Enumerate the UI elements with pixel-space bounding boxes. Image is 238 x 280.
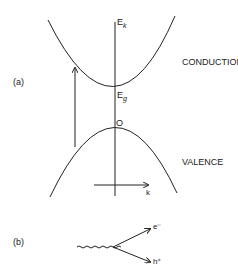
band-diagram	[0, 0, 238, 280]
electron-arrow	[113, 229, 150, 247]
hole-arrow	[113, 247, 150, 262]
valence-band-curve	[50, 127, 177, 197]
energy-axis-label: Ek	[117, 17, 127, 29]
panel-b-label: (b)	[13, 237, 24, 247]
conduction-label: CONDUCTION	[182, 57, 238, 67]
electron-label: e⁻	[153, 222, 161, 231]
conduction-band-curve	[48, 16, 175, 87]
panel-a-label: (a)	[13, 77, 24, 87]
valence-label: VALENCE	[182, 157, 223, 167]
origin-label: O	[116, 118, 123, 128]
hole-label: h⁺	[153, 257, 161, 266]
gap-label: Eg	[117, 90, 127, 102]
k-axis-label: k	[146, 188, 150, 197]
